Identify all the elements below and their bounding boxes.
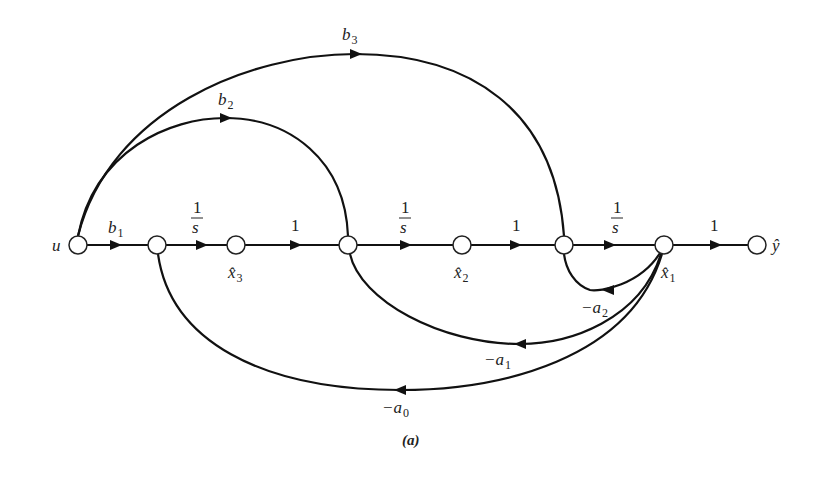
label-u: u [52,236,61,255]
label-one1: 1 [291,216,300,235]
node-x2 [453,236,471,254]
svg-text:1: 1 [401,198,410,217]
node-y [748,236,766,254]
label-one2: 1 [512,216,521,235]
label-s2: 1 s [399,198,411,237]
arrow-right-icon [196,240,208,250]
label-a1: −a1 [484,350,511,372]
arrow-right-icon [400,240,412,250]
edge-b2 [78,118,348,236]
node-x1 [655,236,673,254]
figure-caption: (a) [402,432,420,449]
label-b1: b1 [108,218,124,240]
arrow-right-icon [710,240,722,250]
label-one3: 1 [710,216,719,235]
node-n3 [555,236,573,254]
label-x3: x̂3 [227,263,243,285]
label-b2: b2 [218,90,234,112]
label-s3: 1 s [611,198,623,237]
label-a0: −a0 [382,398,409,420]
svg-text:1: 1 [193,198,202,217]
svg-text:s: s [400,218,407,237]
label-a2: −a2 [581,298,608,320]
arrow-left-icon [602,285,614,295]
svg-text:1: 1 [613,198,622,217]
arrow-left-icon [394,385,406,395]
label-x1: x̂1 [660,263,676,285]
edge-b3 [78,54,564,236]
arrow-right-icon [350,49,362,59]
label-b3: b3 [342,25,358,47]
arrow-right-icon [110,240,122,250]
arrow-right-icon [604,240,616,250]
node-u [69,236,87,254]
arrow-right-icon [220,113,232,123]
arrow-right-icon [290,240,302,250]
edge-a1 [350,254,661,344]
node-n1 [148,236,166,254]
signal-flow-graph: u x̂3 x̂2 x̂1 ŷ b1 1 s 1 1 s 1 1 s 1 b2 … [0,0,819,489]
svg-text:s: s [192,218,199,237]
arrow-left-icon [514,339,526,349]
node-n2 [339,236,357,254]
node-x3 [227,236,245,254]
label-x2: x̂2 [453,263,469,285]
svg-text:s: s [612,218,619,237]
arrow-right-icon [510,240,522,250]
arrowheads [110,49,722,395]
label-y: ŷ [770,236,780,255]
label-s1: 1 s [191,198,203,237]
